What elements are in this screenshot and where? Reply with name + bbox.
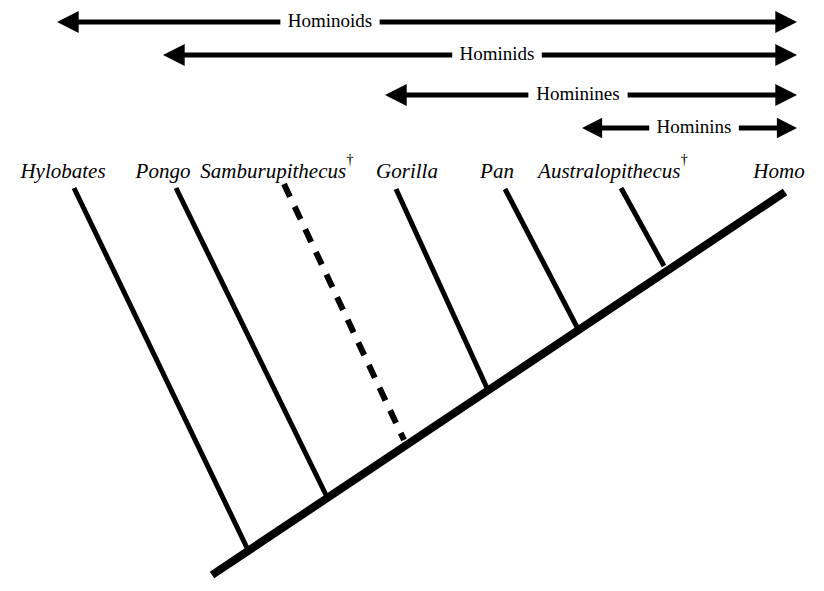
- taxon-name: Pongo: [135, 159, 191, 183]
- clade-bracket-hominines: Hominines: [385, 83, 797, 106]
- cladogram-canvas: HominoidsHominidsHomininesHominins Hylob…: [0, 0, 824, 591]
- branch-hylobates: [74, 188, 249, 552]
- taxon-label-pongo: Pongo: [135, 159, 191, 183]
- taxon-label-samburupithecus: Samburupithecus†: [200, 151, 354, 183]
- clade-bracket-hominids: Hominids: [163, 43, 797, 66]
- branch-australopithecus: [621, 188, 664, 266]
- taxon-label-homo: Homo: [752, 159, 804, 183]
- arrowhead-right-icon: [775, 44, 797, 66]
- arrowhead-left-icon: [57, 11, 79, 33]
- taxon-label-hylobates: Hylobates: [19, 159, 105, 183]
- taxon-label-pan: Pan: [479, 159, 514, 183]
- branch-gorilla: [396, 189, 487, 388]
- arrowhead-right-icon: [775, 84, 797, 106]
- cladogram-figure: HominoidsHominidsHomininesHominins Hylob…: [0, 0, 824, 591]
- extinct-dagger-icon: †: [346, 151, 354, 167]
- branch-pan: [505, 189, 577, 327]
- arrowhead-left-icon: [582, 118, 602, 138]
- taxon-name: Homo: [752, 159, 804, 183]
- clade-bracket-hominoids: Hominoids: [57, 10, 797, 33]
- taxon-label-layer: HylobatesPongoSamburupithecus†GorillaPan…: [19, 151, 804, 183]
- phylogeny-tree-layer: [74, 184, 785, 575]
- taxon-name: Pan: [479, 159, 514, 183]
- taxon-label-gorilla: Gorilla: [376, 159, 438, 183]
- trunk-main-lineage: [212, 192, 785, 575]
- clade-label: Hominoids: [288, 10, 372, 31]
- branch-samburupithecus: [284, 184, 404, 440]
- arrowhead-right-icon: [777, 118, 797, 138]
- clade-label: Hominids: [460, 43, 535, 64]
- taxon-name: Samburupithecus: [200, 159, 346, 183]
- arrowhead-left-icon: [163, 44, 185, 66]
- arrowhead-left-icon: [385, 84, 407, 106]
- clade-bracket-hominins: Hominins: [582, 116, 797, 138]
- taxon-name: Hylobates: [19, 159, 105, 183]
- arrowhead-right-icon: [775, 11, 797, 33]
- taxon-name: Australopithecus: [536, 159, 680, 183]
- clade-label: Hominines: [536, 83, 619, 104]
- taxon-name: Gorilla: [376, 159, 438, 183]
- extinct-dagger-icon: †: [680, 151, 688, 167]
- clade-label: Hominins: [657, 116, 732, 137]
- taxon-label-australopithecus: Australopithecus†: [536, 151, 688, 183]
- clade-bracket-layer: HominoidsHominidsHomininesHominins: [57, 10, 797, 138]
